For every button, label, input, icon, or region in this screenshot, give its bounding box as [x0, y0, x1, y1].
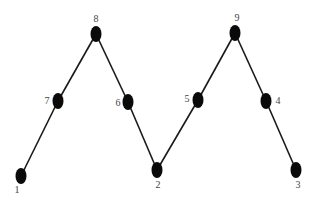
edge-6-2 [128, 102, 157, 170]
node-1 [16, 168, 27, 184]
nodes-group [16, 25, 302, 184]
node-label-5: 5 [185, 93, 190, 104]
node-4 [261, 93, 272, 109]
node-label-3: 3 [296, 179, 301, 190]
path-graph-diagram: 123456789 [0, 0, 316, 200]
edge-9-4 [235, 33, 266, 101]
node-5 [193, 92, 204, 108]
edge-8-6 [96, 34, 128, 102]
edge-7-8 [58, 34, 96, 101]
edge-5-9 [198, 33, 235, 100]
node-9 [230, 25, 241, 41]
node-label-8: 8 [94, 13, 99, 24]
edge-1-7 [21, 101, 58, 176]
node-2 [152, 162, 163, 178]
node-label-2: 2 [156, 179, 161, 190]
node-label-7: 7 [45, 95, 50, 106]
node-label-1: 1 [15, 184, 20, 195]
edge-4-3 [266, 101, 296, 170]
edge-2-5 [157, 100, 198, 170]
node-6 [123, 94, 134, 110]
node-label-6: 6 [116, 97, 121, 108]
node-8 [91, 26, 102, 42]
node-label-4: 4 [276, 95, 281, 106]
node-label-9: 9 [235, 12, 240, 23]
node-7 [53, 93, 64, 109]
node-3 [291, 162, 302, 178]
